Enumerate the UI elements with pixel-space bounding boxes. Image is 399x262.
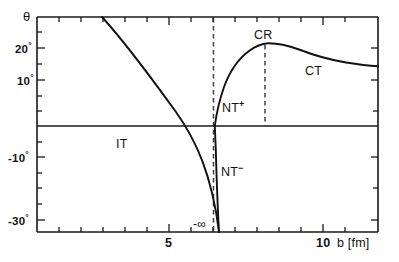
- y-axis-title: θ: [23, 10, 30, 23]
- x-tick-label-10: 10: [316, 237, 330, 250]
- curve-label-ct: CT: [305, 65, 322, 78]
- axis-frame: [37, 17, 378, 232]
- right-axis-ticks: [371, 48, 378, 220]
- deflection-function-chart: θ 20° 10° -10° -30° 5 10 b [fm] -∞ IT NT…: [0, 0, 399, 262]
- curve-label-nt-minus: NT−: [221, 164, 244, 179]
- y-tick-label-neg30: -30°: [8, 213, 29, 227]
- curve-label-nt-plus: NT+: [222, 100, 245, 115]
- x-tick-label-5: 5: [165, 237, 172, 250]
- neg-infinity-label: -∞: [193, 218, 206, 230]
- degree-symbol: °: [25, 212, 29, 222]
- degree-symbol: °: [28, 40, 32, 50]
- superscript-plus: +: [239, 99, 244, 109]
- superscript-minus: −: [238, 163, 243, 173]
- y-tick-label-10: 10°: [17, 73, 34, 87]
- degree-symbol: °: [30, 72, 34, 82]
- x-axis-unit-label: b [fm]: [337, 237, 369, 250]
- curve-it: [102, 17, 219, 232]
- curve-label-it: IT: [116, 138, 128, 151]
- curve-label-cr: CR: [254, 29, 272, 42]
- degree-symbol: °: [25, 149, 29, 159]
- y-tick-label-20: 20°: [15, 41, 32, 55]
- y-tick-label-neg10: -10°: [8, 150, 29, 164]
